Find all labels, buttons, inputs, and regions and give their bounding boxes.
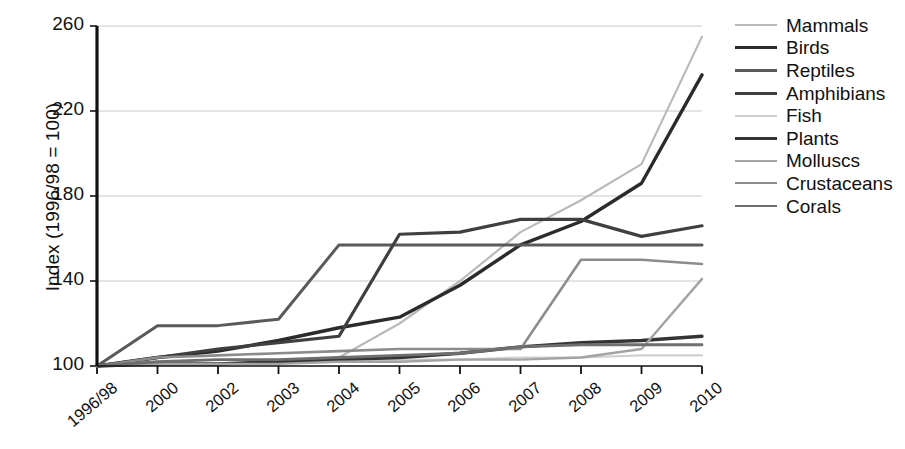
legend-item-birds[interactable]: Birds bbox=[735, 37, 893, 60]
legend-label: Molluscs bbox=[786, 151, 860, 170]
y-tick-label: 220 bbox=[32, 98, 84, 120]
legend-label: Amphibians bbox=[786, 84, 885, 103]
legend-label: Fish bbox=[786, 106, 822, 125]
legend-swatch-icon bbox=[735, 92, 777, 95]
y-tick-label: 140 bbox=[32, 268, 84, 290]
series-line-crustaceans bbox=[97, 260, 702, 366]
legend-item-molluscs[interactable]: Molluscs bbox=[735, 150, 893, 173]
legend-swatch-icon bbox=[735, 205, 777, 207]
legend-label: Corals bbox=[786, 197, 841, 216]
legend-item-corals[interactable]: Corals bbox=[735, 195, 893, 218]
legend-swatch-icon bbox=[735, 69, 777, 72]
legend-label: Reptiles bbox=[786, 61, 855, 80]
y-tick-label: 180 bbox=[32, 183, 84, 205]
legend-label: Birds bbox=[786, 38, 829, 57]
figure-caption bbox=[22, 437, 902, 449]
legend-swatch-icon bbox=[735, 46, 777, 49]
figure: Index (1996/98 = 100) 100140180220260 19… bbox=[0, 0, 905, 449]
series-lines bbox=[97, 37, 702, 366]
legend-swatch-icon bbox=[735, 137, 777, 140]
legend-swatch-icon bbox=[735, 115, 777, 117]
legend-item-plants[interactable]: Plants bbox=[735, 127, 893, 150]
gridlines bbox=[97, 26, 702, 281]
chart-legend: MammalsBirdsReptilesAmphibiansFishPlants… bbox=[735, 14, 893, 217]
y-tick-label: 260 bbox=[32, 13, 84, 35]
legend-swatch-icon bbox=[735, 24, 777, 26]
legend-swatch-icon bbox=[735, 160, 777, 162]
x-axis-ticks bbox=[97, 366, 702, 374]
legend-swatch-icon bbox=[735, 182, 777, 184]
legend-item-fish[interactable]: Fish bbox=[735, 104, 893, 127]
legend-label: Mammals bbox=[786, 16, 868, 35]
legend-item-amphibians[interactable]: Amphibians bbox=[735, 82, 893, 105]
legend-label: Crustaceans bbox=[786, 174, 893, 193]
legend-item-reptiles[interactable]: Reptiles bbox=[735, 59, 893, 82]
legend-label: Plants bbox=[786, 129, 839, 148]
legend-item-mammals[interactable]: Mammals bbox=[735, 14, 893, 37]
y-tick-label: 100 bbox=[32, 353, 84, 375]
legend-item-crustaceans[interactable]: Crustaceans bbox=[735, 172, 893, 195]
